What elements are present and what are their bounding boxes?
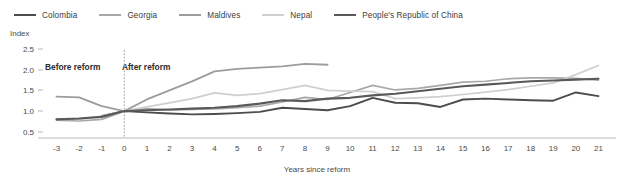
- series-line-colombia: [102, 92, 599, 116]
- series-line-maldives: [57, 64, 328, 111]
- chart-container: ColombiaGeorgiaMaldivesNepalPeople's Rep…: [0, 0, 634, 180]
- plot-area: [0, 0, 634, 180]
